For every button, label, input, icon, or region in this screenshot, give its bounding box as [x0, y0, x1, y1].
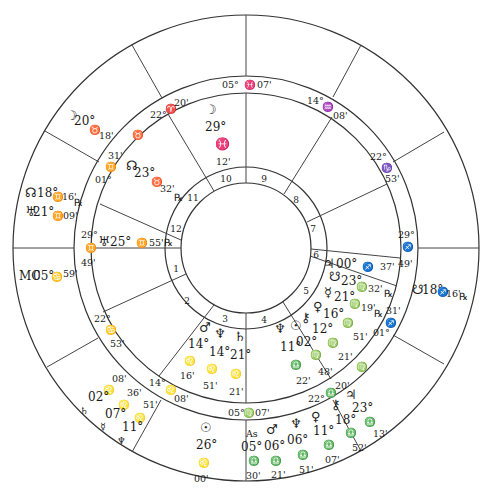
planet-label: 11° [122, 420, 143, 434]
planet-label: ℞ [459, 291, 468, 302]
planet-label: 59' [63, 268, 78, 279]
planet-label: ♍ [349, 298, 361, 310]
cusp-line [47, 338, 98, 367]
cusp-line [103, 274, 186, 312]
planet-label: ☉ [200, 420, 212, 435]
planet-label: 14° [188, 337, 209, 351]
planet-label: ♎ [290, 359, 302, 371]
house-number: 2 [184, 296, 190, 306]
planet-label: ♂ [266, 422, 278, 437]
planet-label: 32' [368, 283, 383, 294]
planet-label: ℞ [164, 237, 173, 248]
cusp-label: ♋ [105, 324, 117, 336]
planet-label: 06° [287, 433, 308, 447]
planet-label: 09' [63, 210, 78, 221]
cusp-label: 22° [94, 313, 111, 324]
house-number: 10 [220, 174, 232, 184]
cusp-label: 53' [110, 338, 125, 349]
planet-label: ♍ [342, 317, 354, 329]
planet-label: ♎ [297, 449, 309, 461]
planet-label: 06° [264, 439, 285, 453]
planet-label: 07° [105, 407, 126, 421]
planet-label: ♅ [98, 234, 110, 249]
planet-label: As [245, 428, 258, 439]
house-number: 3 [222, 314, 228, 324]
cusp-line [132, 45, 162, 98]
ring-house-ring-inner [181, 183, 311, 313]
planet-label: ♍ [327, 337, 339, 349]
planet-label: 30' [246, 470, 261, 481]
planet-label: ♎ [323, 439, 335, 451]
planet-label: ♌ [184, 355, 196, 367]
planet-label: 18' [99, 130, 114, 141]
house-number: 9 [261, 174, 267, 184]
cusp-label: 14° [149, 377, 166, 388]
cusp-label: 22° [308, 393, 325, 404]
planet-label: 36' [127, 387, 142, 398]
planet-label: ♆ [214, 326, 226, 341]
cusp-label: 53' [385, 173, 400, 184]
cusp-label: ♊ [85, 242, 97, 254]
cusp-label: 01° [373, 327, 390, 338]
house-number: 12 [170, 224, 181, 234]
planet-label: ♎ [248, 455, 260, 467]
planet-label: 21' [338, 351, 353, 362]
planet-label: 08' [112, 373, 127, 384]
planet-label: 22' [296, 375, 311, 386]
cusp-label: 49' [81, 257, 96, 268]
planet-label: 29° [205, 120, 226, 134]
planet-label: ♍ [356, 281, 368, 293]
planet-label: 12' [216, 156, 231, 167]
planet-label: 51' [353, 331, 368, 342]
planet-label: 14° [209, 345, 230, 359]
planet-label: ♎ [364, 416, 376, 428]
planet-label: 18° [335, 413, 356, 427]
planet-label: 16' [180, 370, 195, 381]
house-number: 8 [293, 195, 299, 205]
planet-label: 11° [313, 424, 334, 438]
planet-label: ☉ [290, 318, 302, 333]
planet-label: 02° [88, 390, 109, 404]
house-number: 6 [313, 250, 319, 260]
cusp-label: 31' [386, 305, 401, 316]
house-number: 4 [261, 315, 267, 325]
planet-label: ♎ [270, 455, 282, 467]
planet-label: ♋ [51, 271, 63, 283]
cusp-line [284, 117, 332, 194]
planet-label: ♀ [313, 299, 323, 314]
cusp-label: ♉ [132, 129, 144, 141]
planet-label: ♌ [206, 363, 218, 375]
planet-label: ☿ [100, 421, 106, 432]
planet-label: 51' [299, 464, 314, 475]
cusp-label: ♊ [105, 161, 117, 173]
planet-label: ♆ [290, 416, 302, 431]
planet-label: 32' [160, 183, 175, 194]
planet-label: ♍ [356, 361, 368, 373]
house-number: 11 [187, 193, 198, 203]
cusp-label: 31' [108, 150, 123, 161]
cusp-label: 07' [257, 79, 272, 90]
planet-label: ℞ [174, 192, 183, 203]
cusp-label: 07' [255, 407, 270, 418]
planet-label: ☋ [329, 269, 341, 284]
planet-label: ♎ [345, 427, 357, 439]
cusp-line [307, 184, 387, 222]
planet-label: 26° [196, 438, 217, 452]
planet-label: 23° [352, 401, 373, 415]
planet-label: ♀ [311, 409, 321, 424]
planet-label: ♌ [230, 368, 242, 380]
cusp-line [393, 132, 444, 162]
cusp-label: ♓ [244, 79, 256, 91]
cusp-label: ♐ [402, 241, 414, 253]
outer-chart-planets: ☽20°♉18'☊18°♊16'℞♅21°♊09'MC05°♋59'☋18°♐1… [19, 108, 468, 484]
cusp-line [393, 335, 444, 364]
planet-label: ☿ [324, 285, 332, 300]
planet-label: 11° [280, 340, 301, 354]
planet-label: 48' [318, 366, 333, 377]
planet-label: ℞ [374, 308, 383, 319]
cusp-label: 29° [81, 229, 98, 240]
cusp-label: ♍ [243, 407, 255, 419]
cusp-label: 08' [333, 110, 348, 121]
cusp-label: 01° [95, 174, 112, 185]
planet-label: ♂ [199, 320, 211, 335]
